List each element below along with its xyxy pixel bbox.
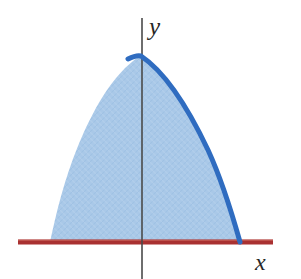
shaded-area [50, 56, 240, 242]
parabola-figure-svg [0, 0, 301, 279]
figure-container: y x [0, 0, 301, 279]
y-axis-label: y [149, 14, 160, 39]
x-axis-label: x [255, 250, 266, 274]
